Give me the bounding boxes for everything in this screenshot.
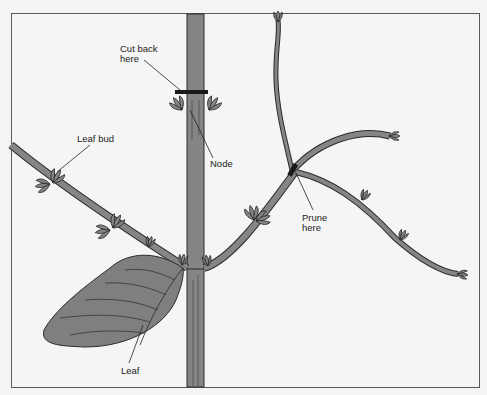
leaf: [43, 255, 183, 347]
label-leaf-bud: Leaf bud: [77, 134, 114, 144]
right-branch: [202, 11, 469, 279]
plant-illustration: [0, 0, 487, 395]
main-stem: [186, 14, 205, 387]
label-prune-here: Prune here: [302, 213, 327, 233]
label-node: Node: [210, 159, 233, 169]
label-leaf: Leaf: [121, 366, 140, 376]
left-branch: [11, 145, 188, 268]
label-cut-back-here: Cut back here: [120, 44, 158, 64]
